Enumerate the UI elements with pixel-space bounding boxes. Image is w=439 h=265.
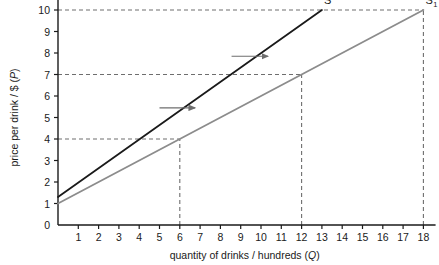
x-tick-label-15: 15	[357, 231, 369, 243]
supply-curve-chart: 012345678910123456789101112131415161718S…	[0, 0, 439, 265]
series-line-S1	[58, 10, 423, 204]
series-line-S	[58, 10, 322, 197]
x-tick-label-2: 2	[96, 231, 102, 243]
y-tick-label-2: 2	[44, 176, 50, 188]
x-tick-label-8: 8	[217, 231, 223, 243]
series-label-S1: S1	[425, 0, 437, 9]
y-tick-label-7: 7	[44, 69, 50, 81]
y-tick-label-5: 5	[44, 112, 50, 124]
x-tick-label-5: 5	[157, 231, 163, 243]
x-tick-label-1: 1	[75, 231, 81, 243]
x-axis-title: quantity of drinks / hundreds (Q)	[170, 249, 320, 261]
y-tick-label-0: 0	[44, 219, 50, 231]
y-tick-label-1: 1	[44, 198, 50, 210]
series-label-subscript-S1: 1	[433, 0, 437, 9]
x-tick-label-6: 6	[177, 231, 183, 243]
x-tick-label-4: 4	[136, 231, 142, 243]
x-tick-label-17: 17	[397, 231, 409, 243]
x-tick-label-16: 16	[377, 231, 389, 243]
x-tick-label-13: 13	[316, 231, 328, 243]
x-tick-label-7: 7	[197, 231, 203, 243]
x-tick-label-9: 9	[238, 231, 244, 243]
y-tick-label-9: 9	[44, 26, 50, 38]
y-tick-label-6: 6	[44, 90, 50, 102]
y-axis-title: price per drink / $ (P)	[8, 68, 20, 166]
y-tick-label-10: 10	[38, 4, 50, 16]
chart-canvas: 012345678910123456789101112131415161718S…	[0, 0, 439, 265]
y-tick-label-4: 4	[44, 133, 50, 145]
x-tick-label-18: 18	[418, 231, 430, 243]
x-tick-label-12: 12	[296, 231, 308, 243]
y-tick-label-8: 8	[44, 47, 50, 59]
x-tick-label-3: 3	[116, 231, 122, 243]
x-tick-label-14: 14	[336, 231, 348, 243]
x-tick-label-10: 10	[255, 231, 267, 243]
y-tick-label-3: 3	[44, 155, 50, 167]
x-tick-label-11: 11	[276, 231, 287, 243]
series-label-S: S	[324, 0, 331, 6]
